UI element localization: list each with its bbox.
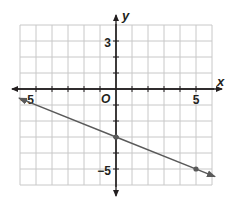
y-tick-label-neg5: −5: [97, 164, 111, 178]
x-axis-label: x: [216, 74, 225, 89]
point-5-neg5: [193, 166, 198, 171]
y-axis-label: y: [121, 8, 130, 23]
origin-label: O: [101, 92, 111, 106]
x-tick-label-5: 5: [193, 93, 200, 107]
point-0-neg3: [113, 134, 118, 139]
y-tick-label-3: 3: [104, 36, 111, 50]
coordinate-plane: x y O −5 5 3 −5: [0, 0, 236, 209]
